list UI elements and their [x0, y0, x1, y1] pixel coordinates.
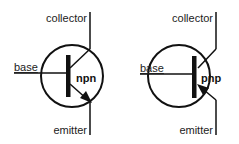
transistor-symbols-diagram: collector base emitter npn collector bas… — [0, 0, 239, 144]
pnp-base-label: base — [140, 62, 164, 74]
npn-transistor-symbol: collector base emitter npn — [14, 12, 103, 136]
pnp-collector-label: collector — [172, 12, 213, 24]
npn-emitter-label: emitter — [53, 124, 87, 136]
pnp-base-bar — [192, 56, 197, 98]
pnp-emitter-label: emitter — [179, 124, 213, 136]
npn-type-label: npn — [76, 72, 96, 84]
npn-collector-label: collector — [46, 12, 87, 24]
npn-collector-diagonal — [70, 49, 90, 68]
pnp-type-label: pnp — [201, 72, 221, 84]
pnp-transistor-symbol: collector base emitter pnp — [140, 12, 221, 136]
npn-base-label: base — [14, 61, 38, 73]
npn-base-bar — [66, 55, 71, 97]
